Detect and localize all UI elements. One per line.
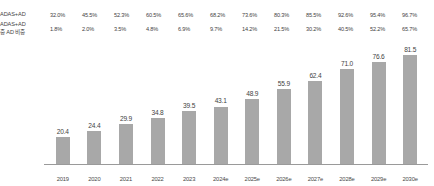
x-axis-tick-label: 2021	[110, 176, 142, 182]
table-cell: 60.5%	[146, 8, 178, 21]
row-label-line: 중 AD 비중	[0, 29, 50, 36]
bar-value-label: 48.9	[246, 91, 258, 98]
row-label-ad-share: ADAS+AD 중 AD 비중	[0, 21, 50, 36]
x-axis-tick-label: 2024e	[205, 176, 237, 182]
table-row-adas-ad-rate: ADAS+AD 32.0% 45.5% 52.3% 60.5% 65.6% 68…	[0, 8, 434, 21]
x-axis-line	[44, 164, 428, 165]
table-cell: 52.3%	[114, 8, 146, 21]
x-axis-tick-label: 2023	[173, 176, 205, 182]
table-cell: 73.6%	[242, 8, 274, 21]
table-cell: 65.6%	[178, 8, 210, 21]
table-cell: 6.9%	[178, 21, 210, 36]
table-cell: 1.8%	[50, 21, 82, 36]
bar	[87, 131, 101, 164]
table-row-ad-share: ADAS+AD 중 AD 비중 1.8% 2.0% 3.5% 4.8% 6.9%…	[0, 21, 434, 36]
bar	[340, 69, 354, 164]
table-cell: 95.4%	[370, 8, 402, 21]
bar-value-label: 81.5	[404, 47, 416, 54]
bar	[119, 124, 133, 164]
x-axis-tick-label: 2030e	[394, 176, 426, 182]
table-cell: 52.2%	[370, 21, 402, 36]
bar-slot: 81.5	[394, 44, 426, 164]
x-axis-tick-label: 2020	[79, 176, 111, 182]
x-axis-tick-label: 2028e	[331, 176, 363, 182]
bar-value-label: 76.6	[373, 54, 385, 61]
x-axis-tick-label: 2027e	[300, 176, 332, 182]
bar-value-label: 24.4	[88, 123, 100, 130]
bar-value-label: 20.4	[57, 129, 69, 136]
table-cell: 45.5%	[82, 8, 114, 21]
bar-value-label: 34.8	[152, 110, 164, 117]
bar	[56, 137, 70, 164]
table-cell: 21.5%	[274, 21, 306, 36]
data-table: ADAS+AD 32.0% 45.5% 52.3% 60.5% 65.6% 68…	[0, 8, 434, 36]
data-table-body: ADAS+AD 32.0% 45.5% 52.3% 60.5% 65.6% 68…	[0, 8, 434, 36]
bar	[403, 55, 417, 164]
bar-slot: 55.9	[268, 44, 300, 164]
x-axis-tick-label: 2026e	[268, 176, 300, 182]
table-cell: 4.8%	[146, 21, 178, 36]
bar	[151, 118, 165, 164]
bar	[308, 81, 322, 164]
bar-slot: 39.5	[173, 44, 205, 164]
row-label-line: ADAS+AD	[0, 11, 50, 18]
x-axis-tick-label: 2029e	[363, 176, 395, 182]
bar-slot: 24.4	[79, 44, 111, 164]
table-cell: 68.2%	[210, 8, 242, 21]
bar-value-label: 39.5	[183, 103, 195, 110]
bar	[245, 99, 259, 164]
bar-value-label: 29.9	[120, 116, 132, 123]
bar-slot: 34.8	[142, 44, 174, 164]
bar-slot: 71.0	[331, 44, 363, 164]
bar-value-label: 43.1	[215, 98, 227, 105]
bar-series: 20.424.429.934.839.543.148.955.962.471.0…	[47, 44, 426, 164]
plot-area: 20.424.429.934.839.543.148.955.962.471.0…	[0, 44, 434, 186]
x-axis-tick-label: 2019	[47, 176, 79, 182]
table-cell: 32.0%	[50, 8, 82, 21]
bar-slot: 20.4	[47, 44, 79, 164]
x-axis-tick-label: 2022	[142, 176, 174, 182]
bar	[182, 111, 196, 164]
bar-value-label: 62.4	[309, 73, 321, 80]
bar-value-label: 71.0	[341, 61, 353, 68]
table-cell: 14.2%	[242, 21, 274, 36]
bar-slot: 43.1	[205, 44, 237, 164]
bar-value-label: 55.9	[278, 81, 290, 88]
table-cell: 3.5%	[114, 21, 146, 36]
table-cell: 92.6%	[338, 8, 370, 21]
table-cell: 40.5%	[338, 21, 370, 36]
chart-container: ADAS+AD 32.0% 45.5% 52.3% 60.5% 65.6% 68…	[0, 0, 434, 186]
table-cell: 85.5%	[306, 8, 338, 21]
table-cell: 65.7%	[402, 21, 434, 36]
x-axis-tick-label: 2025e	[236, 176, 268, 182]
bar-slot: 62.4	[300, 44, 332, 164]
bar-slot: 48.9	[236, 44, 268, 164]
bar	[214, 107, 228, 164]
row-label-line: ADAS+AD	[0, 21, 50, 28]
x-axis-labels: 201920202021202220232024e2025e2026e2027e…	[47, 176, 426, 182]
table-cell: 2.0%	[82, 21, 114, 36]
table-cell: 96.7%	[402, 8, 434, 21]
bar	[277, 89, 291, 164]
bar	[372, 62, 386, 164]
table-cell: 9.7%	[210, 21, 242, 36]
table-cell: 80.3%	[274, 8, 306, 21]
bar-slot: 29.9	[110, 44, 142, 164]
bar-slot: 76.6	[363, 44, 395, 164]
row-label-adas-ad-rate: ADAS+AD	[0, 8, 50, 21]
table-cell: 30.2%	[306, 21, 338, 36]
